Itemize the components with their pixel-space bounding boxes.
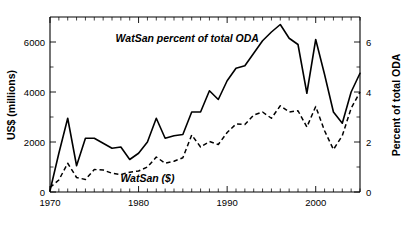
top-axis-ticks xyxy=(50,17,360,23)
annotation-watsan-percent-label: WatSan percent of total ODA xyxy=(116,32,259,44)
y-tick-label: 0 xyxy=(40,187,45,198)
y-axis-title-right: Percent of total ODA xyxy=(390,53,402,156)
y-axis-ticks-right xyxy=(354,42,360,192)
series-line-watsan-percent xyxy=(50,25,360,191)
x-tick-label: 1970 xyxy=(39,197,60,208)
y2-tick-label: 0 xyxy=(366,187,371,198)
y-tick-label: 2000 xyxy=(24,137,45,148)
annotation-watsan-dollars-label: WatSan ($) xyxy=(120,172,175,184)
y2-tick-label: 4 xyxy=(366,87,371,98)
x-axis-tick-labels: 1970198019902000 xyxy=(39,197,326,208)
y-axis-tick-labels-right: 0246 xyxy=(366,37,371,198)
watsan-oda-line-chart: 1970198019902000 0200040006000 0246 WatS… xyxy=(0,0,412,226)
chart-container: 1970198019902000 0200040006000 0246 WatS… xyxy=(0,0,412,226)
y-axis-tick-labels-left: 0200040006000 xyxy=(24,37,45,198)
y2-tick-label: 6 xyxy=(366,37,371,48)
x-axis-ticks xyxy=(50,186,360,192)
x-tick-label: 1980 xyxy=(128,197,149,208)
x-tick-label: 2000 xyxy=(305,197,326,208)
y-tick-label: 4000 xyxy=(24,87,45,98)
y2-tick-label: 2 xyxy=(366,137,371,148)
x-tick-label: 1990 xyxy=(217,197,238,208)
y-tick-label: 6000 xyxy=(24,37,45,48)
y-axis-title-left: US$ (millions) xyxy=(5,70,17,140)
